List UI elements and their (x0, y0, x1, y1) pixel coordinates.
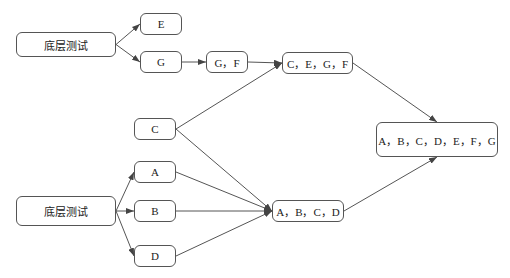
edge-cegf-to-all (353, 63, 437, 122)
edge-bottom1-to-e (116, 24, 140, 45)
edge-d-to-abcd (176, 211, 272, 256)
node-label: C (151, 123, 158, 135)
node-bottom1: 底层测试 (16, 32, 116, 57)
edge-gf-to-cegf (248, 62, 282, 63)
node-cegf: C，E，G，F (282, 52, 353, 74)
node-bottom2: 底层测试 (16, 196, 116, 226)
node-c: C (134, 118, 176, 140)
integration-test-diagram: 底层测试EGG，FC，E，G，FCA，B，C，D，E，F，GA底层测试BA，B，… (0, 0, 510, 278)
node-a: A (134, 161, 176, 183)
edge-bottom2-to-a (116, 172, 134, 211)
node-label: A (151, 166, 159, 178)
edge-a-to-abcd (176, 172, 272, 211)
edge-bottom1-to-g (116, 45, 140, 63)
node-e: E (140, 13, 182, 35)
node-label: E (158, 18, 165, 30)
node-label: 底层测试 (44, 37, 88, 53)
node-label: A，B，C，D (276, 203, 340, 219)
node-g: G (140, 51, 182, 73)
node-label: D (151, 250, 159, 262)
edge-c-to-abcd (176, 129, 272, 211)
node-label: C，E，G，F (287, 55, 348, 71)
node-abcd: A，B，C，D (272, 200, 344, 222)
edge-abcd-to-all (344, 157, 437, 211)
node-label: 底层测试 (44, 203, 88, 219)
edge-bottom2-to-d (116, 211, 134, 256)
node-b: B (134, 200, 176, 222)
node-label: G (157, 56, 165, 68)
node-gf: G，F (206, 51, 248, 73)
node-label: B (151, 205, 158, 217)
node-label: A，B，C，D，E，F，G (378, 132, 495, 148)
node-d: D (134, 245, 176, 267)
node-all: A，B，C，D，E，F，G (376, 122, 498, 157)
node-label: G，F (214, 54, 239, 70)
